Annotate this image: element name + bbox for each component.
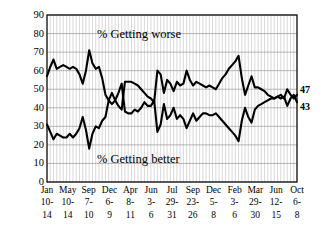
series-line-getting-worse [47,50,297,109]
annotation-getting-better: % Getting better [97,152,180,167]
x-tick-line-start: 6- [280,196,314,208]
x-axis-ticks: Jan10-14May10-14Sep7-10Dec6-9Apr8-11Jun3… [47,184,297,226]
x-axis-tick-label: Oct6-8 [280,184,314,221]
annotation-getting-worse: % Getting worse [97,27,181,42]
x-tick-line-end: 8 [280,209,314,221]
x-tick-line-month: Oct [280,184,314,196]
end-label-getting-worse: 47 [300,85,310,95]
line-chart: Percent 0102030405060708090 % Getting wo… [0,0,326,226]
end-label-getting-better: 43 [300,102,310,112]
series-line-getting-better [47,84,297,149]
